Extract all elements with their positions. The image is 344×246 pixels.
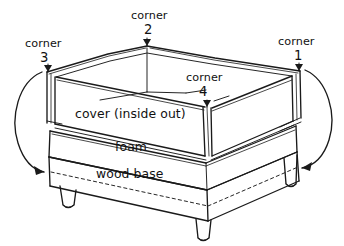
arrow-left-pull-down [15,72,44,175]
corner-3-word: corner [25,38,62,49]
diagram-canvas: corner 2 corner 3 corner 1 corner 4 cove… [0,0,344,246]
foam-layer-label: foam [115,141,147,153]
leg-front [196,219,211,241]
corner-2-number: 2 [144,23,153,36]
wood-base [49,152,299,221]
corner-3-number: 3 [40,51,49,64]
leader-corner-2 [143,38,151,46]
corner-4-word: corner [186,72,223,83]
cover-hem-detail [280,118,301,131]
corner-4-number: 4 [199,85,208,98]
corner-1-number: 1 [294,49,303,62]
cover-corner-post-4 [203,107,212,156]
cover-corner-post-1 [292,71,301,121]
cover-top-rim [47,46,300,74]
corner-2-word: corner [131,10,168,21]
cover-layer-label: cover (inside out) [75,108,186,120]
wood-base-label: wood base [96,168,164,180]
corner-1-word: corner [278,36,315,47]
arrow-right-pull-down [302,70,332,171]
cover-corner-post-3 [47,72,55,124]
